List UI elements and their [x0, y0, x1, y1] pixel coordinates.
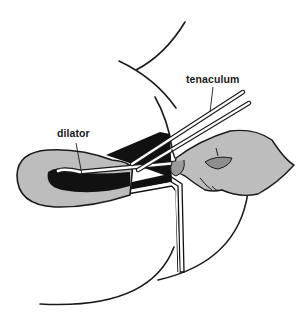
contour-right-lower [158, 192, 248, 280]
tenaculum-leader-line [210, 87, 213, 112]
tenaculum-label: tenaculum [186, 73, 239, 85]
contour-mid [119, 61, 176, 108]
contour-upper [136, 22, 185, 70]
uterus [17, 150, 132, 207]
illustration-canvas: tenaculum dilator [0, 0, 308, 319]
contour-left-lower [40, 247, 174, 305]
dilator-label: dilator [57, 127, 90, 139]
procedure-drawing [0, 0, 308, 319]
